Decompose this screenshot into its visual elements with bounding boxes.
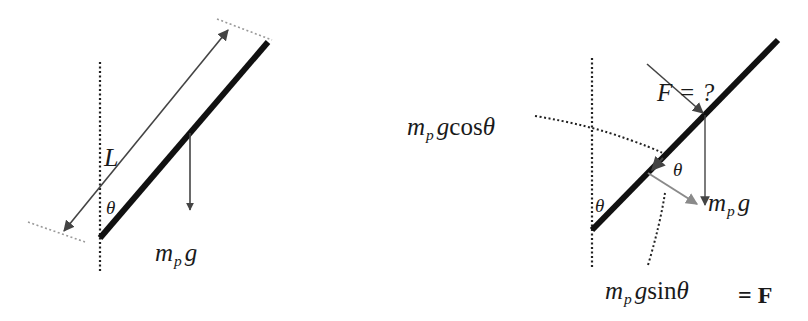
weight-label-left: mpg <box>155 240 197 265</box>
diagram-svg <box>0 0 808 321</box>
diagram-canvas: L θ mpg F = ? θ θ mpg mpgcosθ mpgsinθ = … <box>0 0 808 321</box>
angle-label-left: θ <box>106 198 115 217</box>
length-arrow <box>64 30 228 231</box>
theta-symbol: θ <box>106 197 115 218</box>
end-marker-top-left <box>217 19 272 40</box>
angle-label-component: θ <box>673 160 682 179</box>
rod-left <box>100 42 268 238</box>
sin-function: sin <box>647 277 676 304</box>
weight-label-right: mpg <box>708 190 750 215</box>
sin-leader-dotted <box>648 193 665 265</box>
mass-symbol: m <box>155 239 173 266</box>
gravity-symbol: g <box>185 239 198 266</box>
gravity-symbol: g <box>738 189 751 216</box>
gravity-symbol: g <box>437 113 450 140</box>
theta-symbol: θ <box>677 277 689 304</box>
theta-symbol: θ <box>595 195 604 216</box>
theta-symbol: θ <box>673 159 682 180</box>
equals-force: = F <box>738 282 772 308</box>
end-marker-bottom-left <box>28 222 85 242</box>
mass-symbol: m <box>708 189 726 216</box>
mass-subscript: p <box>426 126 434 143</box>
mass-subscript: p <box>624 290 632 307</box>
theta-symbol: θ <box>483 113 495 140</box>
mass-symbol: m <box>605 277 623 304</box>
right-panel <box>535 40 778 268</box>
angle-label-rod: θ <box>595 196 604 215</box>
gravity-symbol: g <box>635 277 648 304</box>
left-panel <box>28 19 272 272</box>
cos-function: cos <box>449 113 482 140</box>
length-symbol: L <box>104 143 118 172</box>
length-label: L <box>104 145 118 171</box>
cos-leader-dotted <box>535 116 663 153</box>
mass-symbol: m <box>407 113 425 140</box>
equals-f-label: = F <box>738 283 772 307</box>
sin-component-label: mpgsinθ <box>605 278 689 303</box>
mass-subscript: p <box>174 252 182 269</box>
force-question: F = ? <box>657 79 714 106</box>
mass-subscript: p <box>727 202 735 219</box>
force-label: F = ? <box>657 80 714 105</box>
cos-component-label: mpgcosθ <box>407 114 495 139</box>
